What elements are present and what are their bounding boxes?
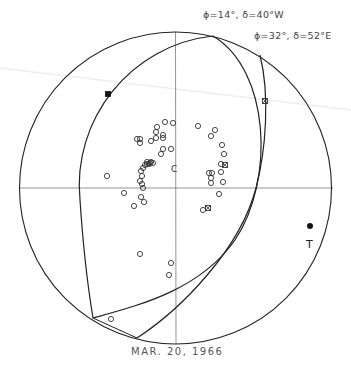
open-circle-marker <box>200 207 205 212</box>
open-circle-marker <box>148 138 153 143</box>
open-circle-marker <box>158 151 163 156</box>
open-circle-marker <box>137 251 142 256</box>
open-circle-marker <box>219 142 224 147</box>
focal-mechanism-diagram: C ϕ=14°, δ=40°W ϕ=32°, δ=52°E T MAR. 20,… <box>0 0 351 372</box>
open-circle-marker <box>208 180 213 185</box>
date-caption: MAR. 20, 1966 <box>131 346 223 357</box>
open-circle-marker <box>153 129 158 134</box>
open-circle-marker <box>168 260 173 265</box>
open-circle-marker <box>168 146 173 151</box>
open-circle-marker <box>166 272 171 277</box>
plane-label-phi32: ϕ=32°, δ=52°E <box>254 30 332 41</box>
open-circle-marker <box>216 191 221 196</box>
center-c-label: C <box>171 164 177 174</box>
open-circle-marker <box>104 173 109 178</box>
open-circle-marker <box>121 190 126 195</box>
open-circle-marker <box>208 133 213 138</box>
open-circle-marker <box>162 119 167 124</box>
filled-square-marker <box>106 92 111 97</box>
open-circle-marker <box>212 127 217 132</box>
t-axis-marker <box>307 223 313 229</box>
nodal-plane-phi14 <box>79 36 261 318</box>
open-circle-marker <box>195 123 200 128</box>
open-circle-marker <box>221 151 226 156</box>
vertical-axis <box>176 32 177 344</box>
stereonet-plot: C <box>0 0 351 372</box>
open-circle-marker <box>139 173 144 178</box>
open-circle-marker <box>131 203 136 208</box>
t-axis-label: T <box>306 238 313 251</box>
open-circle-marker <box>160 146 165 151</box>
open-circle-marker <box>208 175 213 180</box>
open-circle-marker <box>170 120 175 125</box>
bottom-chord <box>93 318 137 338</box>
open-circle-marker <box>138 194 143 199</box>
open-circle-marker <box>154 124 159 129</box>
open-circle-marker <box>141 199 146 204</box>
open-circle-marker <box>153 135 158 140</box>
data-markers: C <box>104 92 313 322</box>
open-circle-marker <box>220 179 225 184</box>
open-circle-marker <box>218 169 223 174</box>
open-circle-marker <box>108 316 113 321</box>
plane-label-phi14: ϕ=14°, δ=40°W <box>203 9 284 20</box>
